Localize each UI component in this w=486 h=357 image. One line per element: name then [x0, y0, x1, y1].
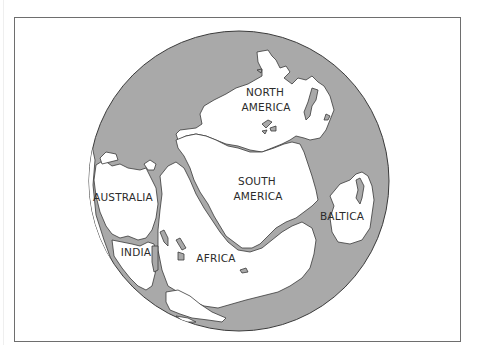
label-north-america-line2: AMERICA	[241, 101, 291, 113]
label-australia: AUSTRALIA	[93, 191, 154, 203]
label-north-america-line1: NORTH	[246, 86, 284, 98]
paleogeographic-globe-map: NORTH AMERICA SOUTH AMERICA AUSTRALIA IN…	[0, 0, 486, 357]
island	[152, 246, 158, 272]
label-india: INDIA	[121, 246, 152, 258]
label-baltica: BALTICA	[320, 210, 365, 222]
label-south-america-line1: SOUTH	[238, 175, 276, 187]
label-south-america-line2: AMERICA	[233, 190, 283, 202]
label-africa: AFRICA	[196, 252, 236, 264]
